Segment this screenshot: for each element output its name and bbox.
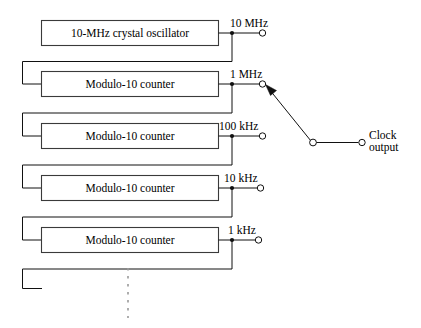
output-terminal-1[interactable] [259, 81, 265, 87]
switch-arm[interactable] [269, 89, 311, 141]
frequency-label-1: 1 MHz [230, 68, 262, 80]
clock-output-label-line2: output [369, 141, 399, 154]
frequency-label-2: 100 kHz [219, 120, 258, 132]
switch-arrowhead-icon [266, 85, 277, 96]
diagram-canvas: 10-MHz crystal oscillator 10 MHz Modulo-… [0, 0, 421, 328]
clock-output-terminal[interactable] [359, 139, 365, 145]
block-label-4: Modulo-10 counter [85, 234, 174, 246]
frequency-label-4: 1 kHz [228, 224, 256, 236]
block-diagram: 10-MHz crystal oscillator 10 MHz Modulo-… [0, 0, 421, 328]
switch-pivot-terminal[interactable] [310, 139, 317, 146]
block-label-3: Modulo-10 counter [85, 182, 174, 194]
output-terminal-2[interactable] [259, 133, 265, 139]
block-label-2: Modulo-10 counter [85, 130, 174, 142]
block-label-1: Modulo-10 counter [85, 78, 174, 90]
frequency-label-0: 10 MHz [230, 17, 268, 29]
output-terminal-3[interactable] [257, 185, 263, 191]
clock-output-label-line1: Clock [369, 129, 397, 141]
output-terminal-4[interactable] [255, 237, 261, 243]
frequency-label-3: 10 kHz [224, 172, 258, 184]
output-terminal-0[interactable] [259, 30, 265, 36]
block-label-0: 10-MHz crystal oscillator [71, 27, 189, 40]
